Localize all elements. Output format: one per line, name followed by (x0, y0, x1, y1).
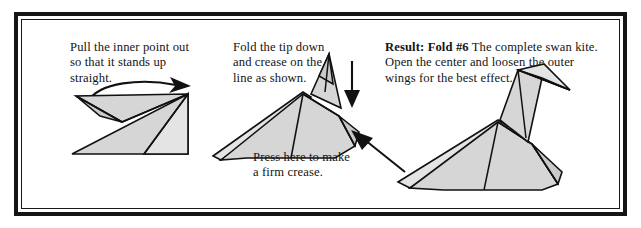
panel-step-3: Result: Fold #6 The complete swan kite. … (378, 24, 618, 204)
origami-instruction-page: Pull the inner point out so that it stan… (0, 0, 641, 228)
kite-with-inner-point-figure (70, 86, 195, 158)
panel-3-caption-bold: Result: Fold #6 (385, 40, 469, 54)
fold-down-arrow (342, 60, 364, 110)
panel-step-2: Fold the tip down and crease on the line… (213, 24, 378, 204)
completed-swan-kite-figure (392, 64, 607, 194)
panel-step-1: Pull the inner point out so that it stan… (28, 24, 213, 204)
